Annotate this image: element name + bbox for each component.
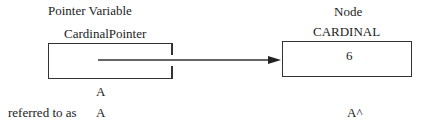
- node-heading: Node: [334, 5, 362, 19]
- referred-caption: referred to as: [8, 106, 77, 120]
- node-value: 6: [346, 49, 353, 63]
- pointer-label: A: [96, 85, 105, 99]
- pointer-reference: A: [96, 106, 105, 120]
- node-reference: A^: [347, 106, 363, 120]
- node-type: CARDINAL: [313, 25, 380, 39]
